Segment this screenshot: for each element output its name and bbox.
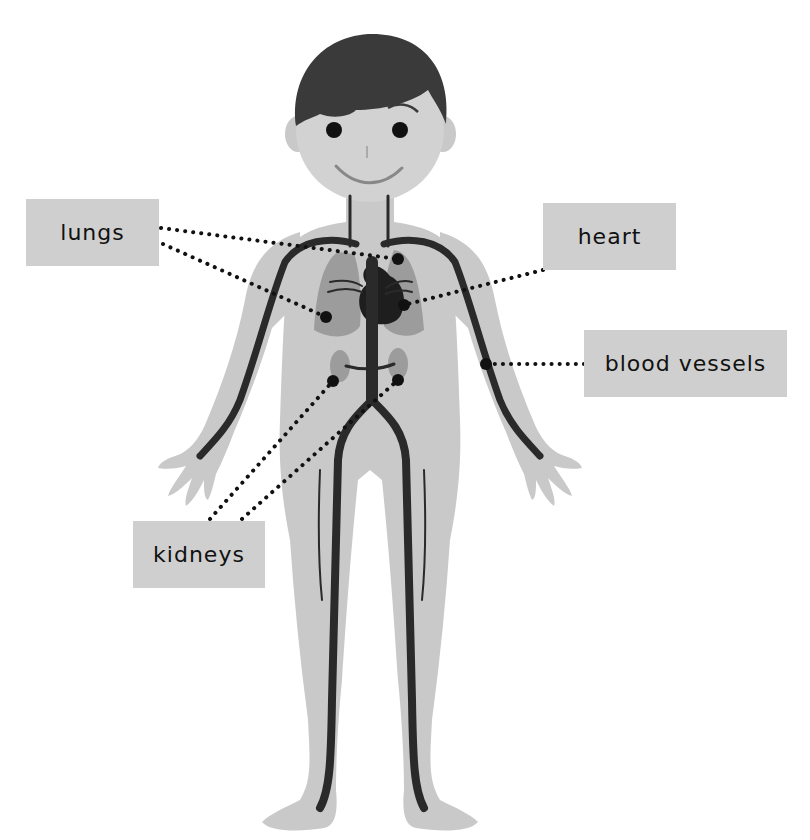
body-silhouette (158, 116, 582, 830)
label-heart: heart (543, 203, 676, 270)
head (295, 34, 447, 202)
leader-endpoint-blood-vessels (480, 358, 492, 370)
leader-endpoint-kidneys (327, 375, 339, 387)
leader-endpoint-heart (398, 299, 410, 311)
right-eye (392, 122, 408, 138)
label-kidneys: kidneys (133, 521, 265, 588)
label-lungs: lungs (26, 199, 159, 266)
left-eye (326, 122, 342, 138)
leader-endpoint-lungs (392, 253, 404, 265)
circulatory-diagram (0, 0, 810, 840)
label-blood-vessels: blood vessels (584, 330, 787, 397)
leader-endpoint-kidneys (392, 374, 404, 386)
leader-endpoint-lungs (320, 311, 332, 323)
